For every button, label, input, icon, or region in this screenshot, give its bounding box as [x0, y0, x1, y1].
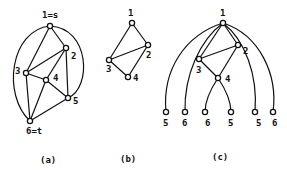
node-c-4: [215, 75, 220, 80]
leaf-c-1: [163, 109, 168, 114]
edge-c-2-3: [199, 45, 238, 59]
leaf-label-c-2: 6: [182, 118, 187, 128]
edge-c-1-leaf6: [223, 23, 274, 112]
leaf-c-3: [202, 109, 207, 114]
leaf-label-c-5: 5: [256, 118, 261, 128]
graph-b: 1 2 3 4 (b): [106, 8, 151, 164]
node-b-3: [106, 57, 111, 62]
node-c-3: [196, 56, 201, 61]
caption-c: (c): [212, 152, 228, 162]
label-a-4: 4: [53, 73, 59, 83]
label-a-3: 3: [15, 66, 20, 76]
node-a-2: [63, 45, 68, 50]
edge-c-4-leaf3: [205, 78, 218, 112]
edge-b-1-2: [132, 23, 148, 45]
label-b-3: 3: [106, 64, 111, 74]
edge-b-1-3: [109, 23, 132, 60]
node-c-2: [235, 42, 240, 47]
label-a-1: 1=s: [42, 10, 58, 20]
node-a-5: [65, 95, 70, 100]
label-b-2: 2: [146, 50, 151, 60]
label-a-5: 5: [73, 96, 78, 106]
edge-c-1-leaf5: [223, 23, 255, 112]
edge-c-1-3: [199, 23, 223, 59]
graph-a: 1=s 2 3 4 5 6=t (a): [13, 10, 83, 165]
edge-a-3-6: [26, 73, 30, 121]
label-c-3: 3: [196, 65, 201, 75]
figure-canvas: 1=s 2 3 4 5 6=t (a) 1 2 3 4 (b): [0, 0, 287, 177]
label-c-2: 2: [243, 46, 248, 56]
node-b-2: [145, 42, 150, 47]
edge-b-3-4: [109, 60, 128, 77]
edge-a-2-5: [66, 48, 68, 98]
node-a-3: [23, 70, 28, 75]
node-a-1: [47, 23, 52, 28]
node-a-6: [27, 118, 32, 123]
label-a-2: 2: [71, 51, 76, 61]
leaf-label-c-3: 6: [205, 118, 210, 128]
edge-b-2-3: [109, 45, 148, 60]
leaf-c-6: [270, 109, 275, 114]
node-c-1: [220, 20, 225, 25]
leaf-c-5: [252, 109, 257, 114]
label-c-4: 4: [225, 74, 231, 84]
edge-a-4-6: [30, 80, 46, 121]
node-b-4: [125, 74, 130, 79]
edge-c-1-leaf2: [185, 23, 223, 112]
leaf-label-c-4: 5: [228, 118, 233, 128]
edge-c-3-4: [199, 59, 218, 78]
node-a-4: [43, 77, 48, 82]
leaf-label-c-6: 6: [272, 118, 277, 128]
leaf-c-4: [228, 109, 233, 114]
label-b-1: 1: [128, 8, 133, 18]
leaf-c-2: [182, 109, 187, 114]
label-c-1: 1: [220, 8, 225, 18]
label-b-4: 4: [133, 73, 139, 83]
edge-a-6-5: [30, 98, 68, 121]
node-b-1: [129, 20, 134, 25]
caption-b: (b): [120, 154, 136, 164]
label-a-6: 6=t: [26, 126, 42, 136]
graph-c: 1 2 3 4 5 6 6 5 5 6 (c): [163, 8, 277, 162]
caption-a: (a): [40, 155, 56, 165]
leaf-label-c-1: 5: [163, 118, 168, 128]
